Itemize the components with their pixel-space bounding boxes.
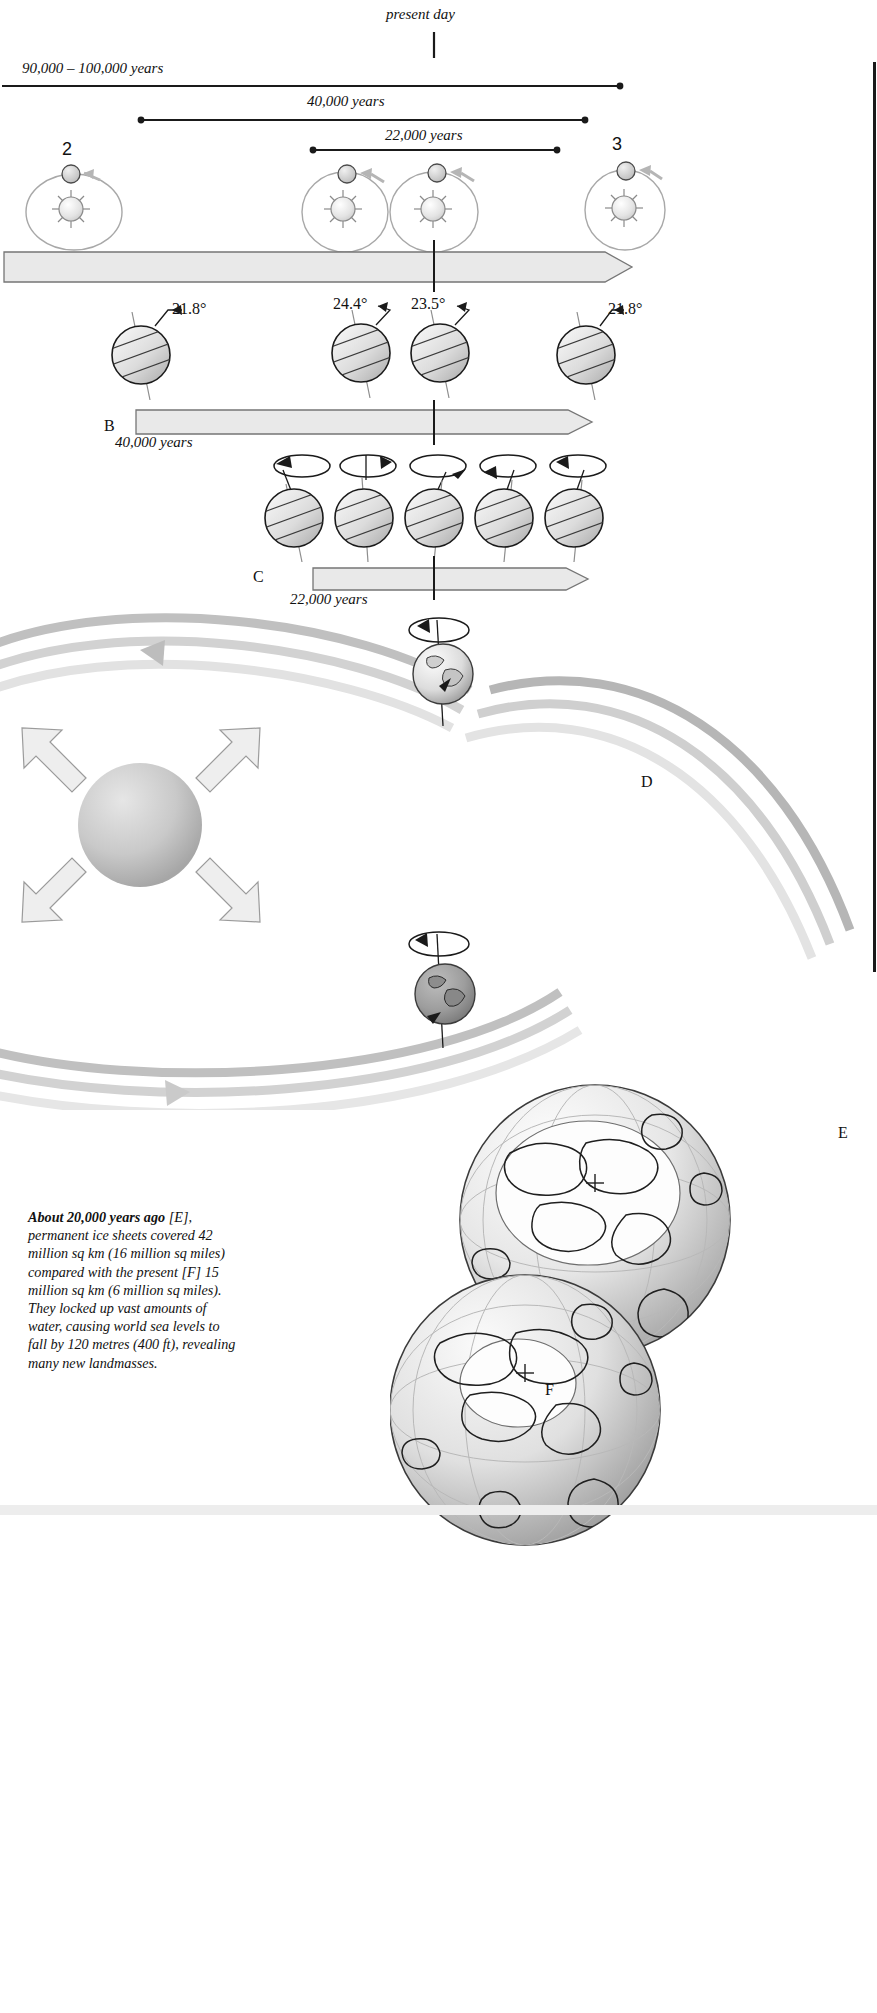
earth-globe-d-bottom [395, 920, 545, 1055]
tilted-globes-group-b [0, 290, 877, 410]
orbit-diagram-1 [26, 165, 122, 250]
timeline-label-obliquity: 40,000 years [307, 93, 385, 110]
orbit-direction-arrow-bottom [165, 1080, 190, 1106]
sun-icon [52, 190, 90, 228]
sun-icon [324, 190, 362, 228]
earth-icon [62, 165, 80, 183]
section-label-f: F [545, 1381, 554, 1399]
ray-arrow-upright [196, 728, 260, 792]
tilted-globe-1 [108, 305, 182, 400]
section-label-d: D [641, 773, 653, 791]
ray-arrow-upleft [22, 728, 86, 792]
present-day-marker-a [425, 240, 445, 292]
figure-canvas: present day 90,000 – 100,000 years 40,00… [0, 0, 877, 2013]
page-rule-right-upper [873, 62, 876, 972]
caption-lead: About 20,000 years ago [28, 1209, 165, 1225]
ray-arrow-downright [196, 858, 260, 922]
caption-ref-f: [F] [181, 1264, 201, 1280]
tilted-globe-2 [328, 302, 394, 398]
eccentricity-endpoint-dot [617, 83, 624, 90]
precession-globe-2 [331, 455, 397, 562]
orbit-diagram-2 [302, 165, 388, 252]
sun-body [78, 763, 202, 887]
ice-age-globes-group [390, 1065, 877, 1625]
orbit-diagram-3 [390, 164, 478, 252]
ray-arrow-downleft [22, 858, 86, 922]
precession-cone-d-top [409, 618, 469, 642]
present-day-marker-b [425, 400, 445, 445]
sun-icon [414, 190, 452, 228]
obliquity-start-dot [138, 117, 145, 124]
present-day-marker-c [425, 556, 445, 600]
sun-icon [605, 189, 643, 227]
bar-caption-b: 40,000 years [115, 434, 193, 451]
figure-caption: About 20,000 years ago [E], permanent ic… [28, 1208, 238, 1372]
page-band-bottom [0, 1505, 877, 1515]
sun-with-rays [22, 728, 260, 922]
tilted-globe-3 [407, 302, 473, 398]
orbit-diagram-4 [585, 162, 665, 250]
obliquity-end-dot [582, 117, 589, 124]
caption-ref-e: [E] [169, 1209, 189, 1225]
precession-globe-5 [541, 455, 607, 562]
precession-globe-1 [261, 455, 330, 562]
earth-icon [338, 165, 356, 183]
precession-cone-ellipse [274, 455, 330, 477]
earth-globe-d-top [395, 608, 535, 733]
section-label-e: E [838, 1124, 848, 1142]
earth-icon [428, 164, 446, 182]
precession-cone-d-bottom [409, 932, 469, 956]
timeline-label-eccentricity: 90,000 – 100,000 years [22, 60, 163, 77]
precession-globe-4 [471, 455, 537, 562]
timeline-label-precession: 22,000 years [385, 127, 463, 144]
precession-globe-3 [401, 455, 467, 562]
earth-icon [617, 162, 635, 180]
bar-caption-c: 22,000 years [290, 591, 368, 608]
tilted-globe-4 [553, 305, 624, 400]
